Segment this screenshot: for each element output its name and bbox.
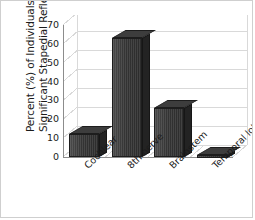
y-axis-tick-labels: 706050403020100 [35, 1, 59, 171]
x-axis-category-label: Cochlear [82, 163, 90, 171]
y-axis-tick-label: 30 [37, 94, 59, 105]
y-axis-tick-label: 50 [37, 57, 59, 68]
y-axis-tick-label: 60 [37, 38, 59, 49]
y-axis-tick-label: 70 [37, 19, 59, 30]
x-axis-category-label: Brainstem [167, 163, 175, 171]
x-axis-category-label: Temporal lobe [210, 163, 218, 171]
y-axis-tick-label: 10 [37, 132, 59, 143]
y-axis-tick-label: 0 [37, 151, 59, 162]
y-axis-tick-label: 20 [37, 113, 59, 124]
y-axis-tick-label: 40 [37, 76, 59, 87]
chart-figure: Percent (%) of Individuals Showing Signi… [0, 0, 253, 218]
bar [154, 96, 184, 157]
x-axis-category-label: 8th nerve [125, 163, 133, 171]
